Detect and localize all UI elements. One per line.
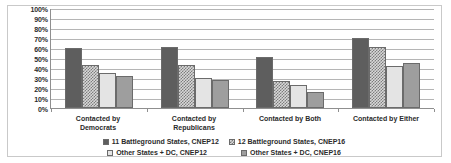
legend-item-label: Other States + DC, CNEP12 xyxy=(116,149,207,157)
bar xyxy=(116,76,133,108)
legend-item: Other States + DC, CNEP12 xyxy=(107,149,207,157)
legend-item-label: 12 Battleground States, CNEP16 xyxy=(238,138,345,146)
y-axis-tick: 20% xyxy=(14,86,48,93)
bar xyxy=(212,80,229,108)
y-axis: 100% 90% 80% 70% 60% 50% 40% 30% 20% 10%… xyxy=(14,9,48,109)
x-axis-category-line: Republicans xyxy=(146,123,242,132)
legend-swatch-icon xyxy=(107,150,113,156)
y-axis-tick: 30% xyxy=(14,76,48,83)
bar xyxy=(161,47,178,108)
legend-row: Other States + DC, CNEP12 Other States +… xyxy=(14,147,434,158)
legend-item: Other States + DC, CNEP16 xyxy=(241,149,341,157)
x-axis-category-line: Contacted by Both xyxy=(242,114,338,123)
bar xyxy=(256,57,273,108)
y-axis-tick: 10% xyxy=(14,96,48,103)
y-axis-tick: 0% xyxy=(14,106,48,113)
x-axis-tickmark xyxy=(338,109,339,112)
plot-wrapper: 100% 90% 80% 70% 60% 50% 40% 30% 20% 10%… xyxy=(14,9,434,113)
x-axis-tickmark xyxy=(243,109,244,112)
legend-item-label: 11 Battleground States, CNEP12 xyxy=(112,138,219,146)
y-axis-tick: 50% xyxy=(14,56,48,63)
legend-item: 12 Battleground States, CNEP16 xyxy=(229,138,345,146)
x-axis-tickmark xyxy=(434,109,435,112)
bar xyxy=(290,85,307,108)
bar-group xyxy=(243,9,339,108)
x-axis-category-line: Contacted by xyxy=(50,114,146,123)
bar xyxy=(195,78,212,108)
bar xyxy=(307,92,324,108)
bar-group xyxy=(51,9,147,108)
chart-figure: 100% 90% 80% 70% 60% 50% 40% 30% 20% 10%… xyxy=(0,0,451,163)
x-axis-tickmark xyxy=(147,109,148,112)
bar xyxy=(369,47,386,108)
x-axis-labels: Contacted by Democrats Contacted by Repu… xyxy=(50,114,434,132)
bar xyxy=(273,81,290,108)
x-axis-category-line: Contacted by Either xyxy=(338,114,434,123)
bar xyxy=(403,63,420,108)
bar xyxy=(99,73,116,108)
bar-groups xyxy=(51,9,434,108)
bar xyxy=(82,65,99,108)
x-axis-category-label: Contacted by Republicans xyxy=(146,114,242,132)
legend-swatch-icon xyxy=(241,150,247,156)
y-axis-tick: 80% xyxy=(14,26,48,33)
bar xyxy=(352,38,369,108)
legend-item: 11 Battleground States, CNEP12 xyxy=(103,138,219,146)
plot-area xyxy=(50,9,434,109)
x-axis-category-label: Contacted by Both xyxy=(242,114,338,132)
x-axis-category-label: Contacted by Either xyxy=(338,114,434,132)
y-axis-tick: 100% xyxy=(14,6,48,13)
y-axis-tick: 70% xyxy=(14,36,48,43)
x-axis-tickmark xyxy=(51,109,52,112)
x-axis-category-line: Democrats xyxy=(50,123,146,132)
y-axis-tick: 90% xyxy=(14,16,48,23)
legend-swatch-icon xyxy=(229,139,235,145)
y-axis-tick: 40% xyxy=(14,66,48,73)
bar xyxy=(386,66,403,108)
legend-swatch-icon xyxy=(103,139,109,145)
chart-legend: 11 Battleground States, CNEP12 12 Battle… xyxy=(14,136,434,158)
x-axis-category-label: Contacted by Democrats xyxy=(50,114,146,132)
legend-row: 11 Battleground States, CNEP12 12 Battle… xyxy=(14,136,434,147)
bar xyxy=(65,48,82,108)
y-axis-tick: 60% xyxy=(14,46,48,53)
x-axis-category-line: Contacted by xyxy=(146,114,242,123)
bar-group xyxy=(338,9,434,108)
bar xyxy=(178,65,195,108)
bar-group xyxy=(147,9,243,108)
legend-item-label: Other States + DC, CNEP16 xyxy=(250,149,341,157)
